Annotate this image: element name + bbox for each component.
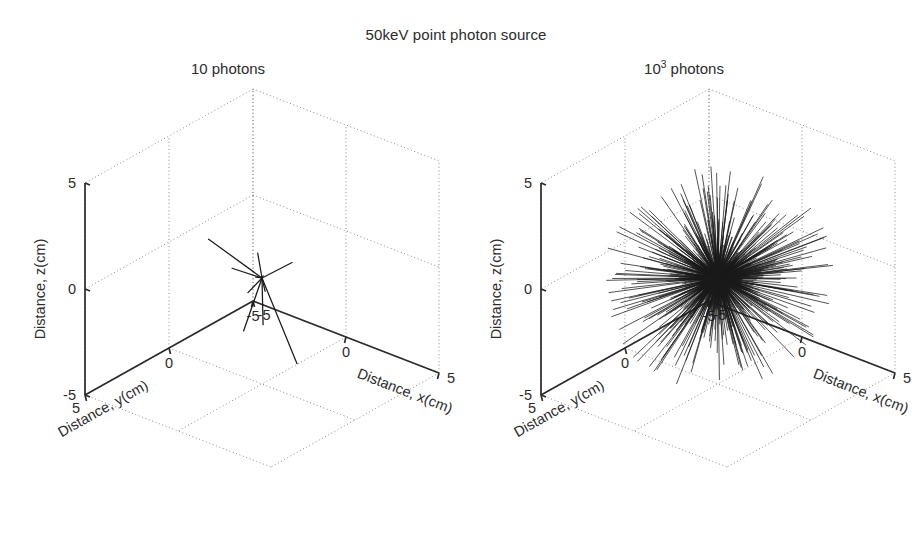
axis-label-x: Distance, x(cm) [811, 365, 911, 416]
subplot-left-10-photons: 10 photons 50-550-5-505Distance, z(cm)Di… [0, 0, 456, 544]
gridline-floor-x [625, 348, 811, 420]
ticklabel-y: 0 [165, 355, 173, 371]
photon-track [258, 253, 262, 278]
tick-x [894, 373, 896, 379]
subplot-right-1000-photons: 103 photons 50-550-5-505Distance, z(cm)D… [456, 0, 912, 544]
axis-label-x: Distance, x(cm) [355, 365, 455, 416]
gridline-floor-y [178, 337, 346, 431]
photon-track [209, 239, 262, 278]
ticklabel-x: -5 [258, 307, 271, 323]
ticklabel-y: 0 [621, 355, 629, 371]
gridline-leftwall-h [85, 195, 253, 289]
tick-x [345, 337, 347, 343]
ticklabel-z: 5 [68, 175, 76, 191]
ticklabel-z: 0 [524, 281, 532, 297]
axis-label-z: Distance, z(cm) [488, 239, 504, 340]
photon-track [232, 268, 262, 278]
tick-x [438, 373, 440, 379]
tick-y [169, 348, 171, 354]
ticklabel-z: 0 [68, 281, 76, 297]
gridline-floor-x [169, 348, 355, 420]
axis-label-z: Distance, z(cm) [32, 239, 48, 340]
gridline-rightwall-h [253, 195, 439, 267]
axes-3d-left: 50-550-5-505Distance, z(cm)Distance, y(c… [0, 0, 456, 544]
ticklabel-x: 5 [903, 370, 911, 386]
ticklabel-x: 5 [447, 370, 455, 386]
figure-root: 50keV point photon source 10 photons 50-… [0, 0, 912, 544]
tick-y [625, 348, 627, 354]
axes-3d-right: 50-550-5-505Distance, z(cm)Distance, y(c… [456, 0, 912, 544]
ticklabel-x: 0 [342, 344, 350, 360]
gridline-floor-y [634, 337, 802, 431]
ticklabel-x: 0 [798, 344, 806, 360]
ticklabel-z: 5 [524, 175, 532, 191]
photon-track [262, 263, 292, 278]
